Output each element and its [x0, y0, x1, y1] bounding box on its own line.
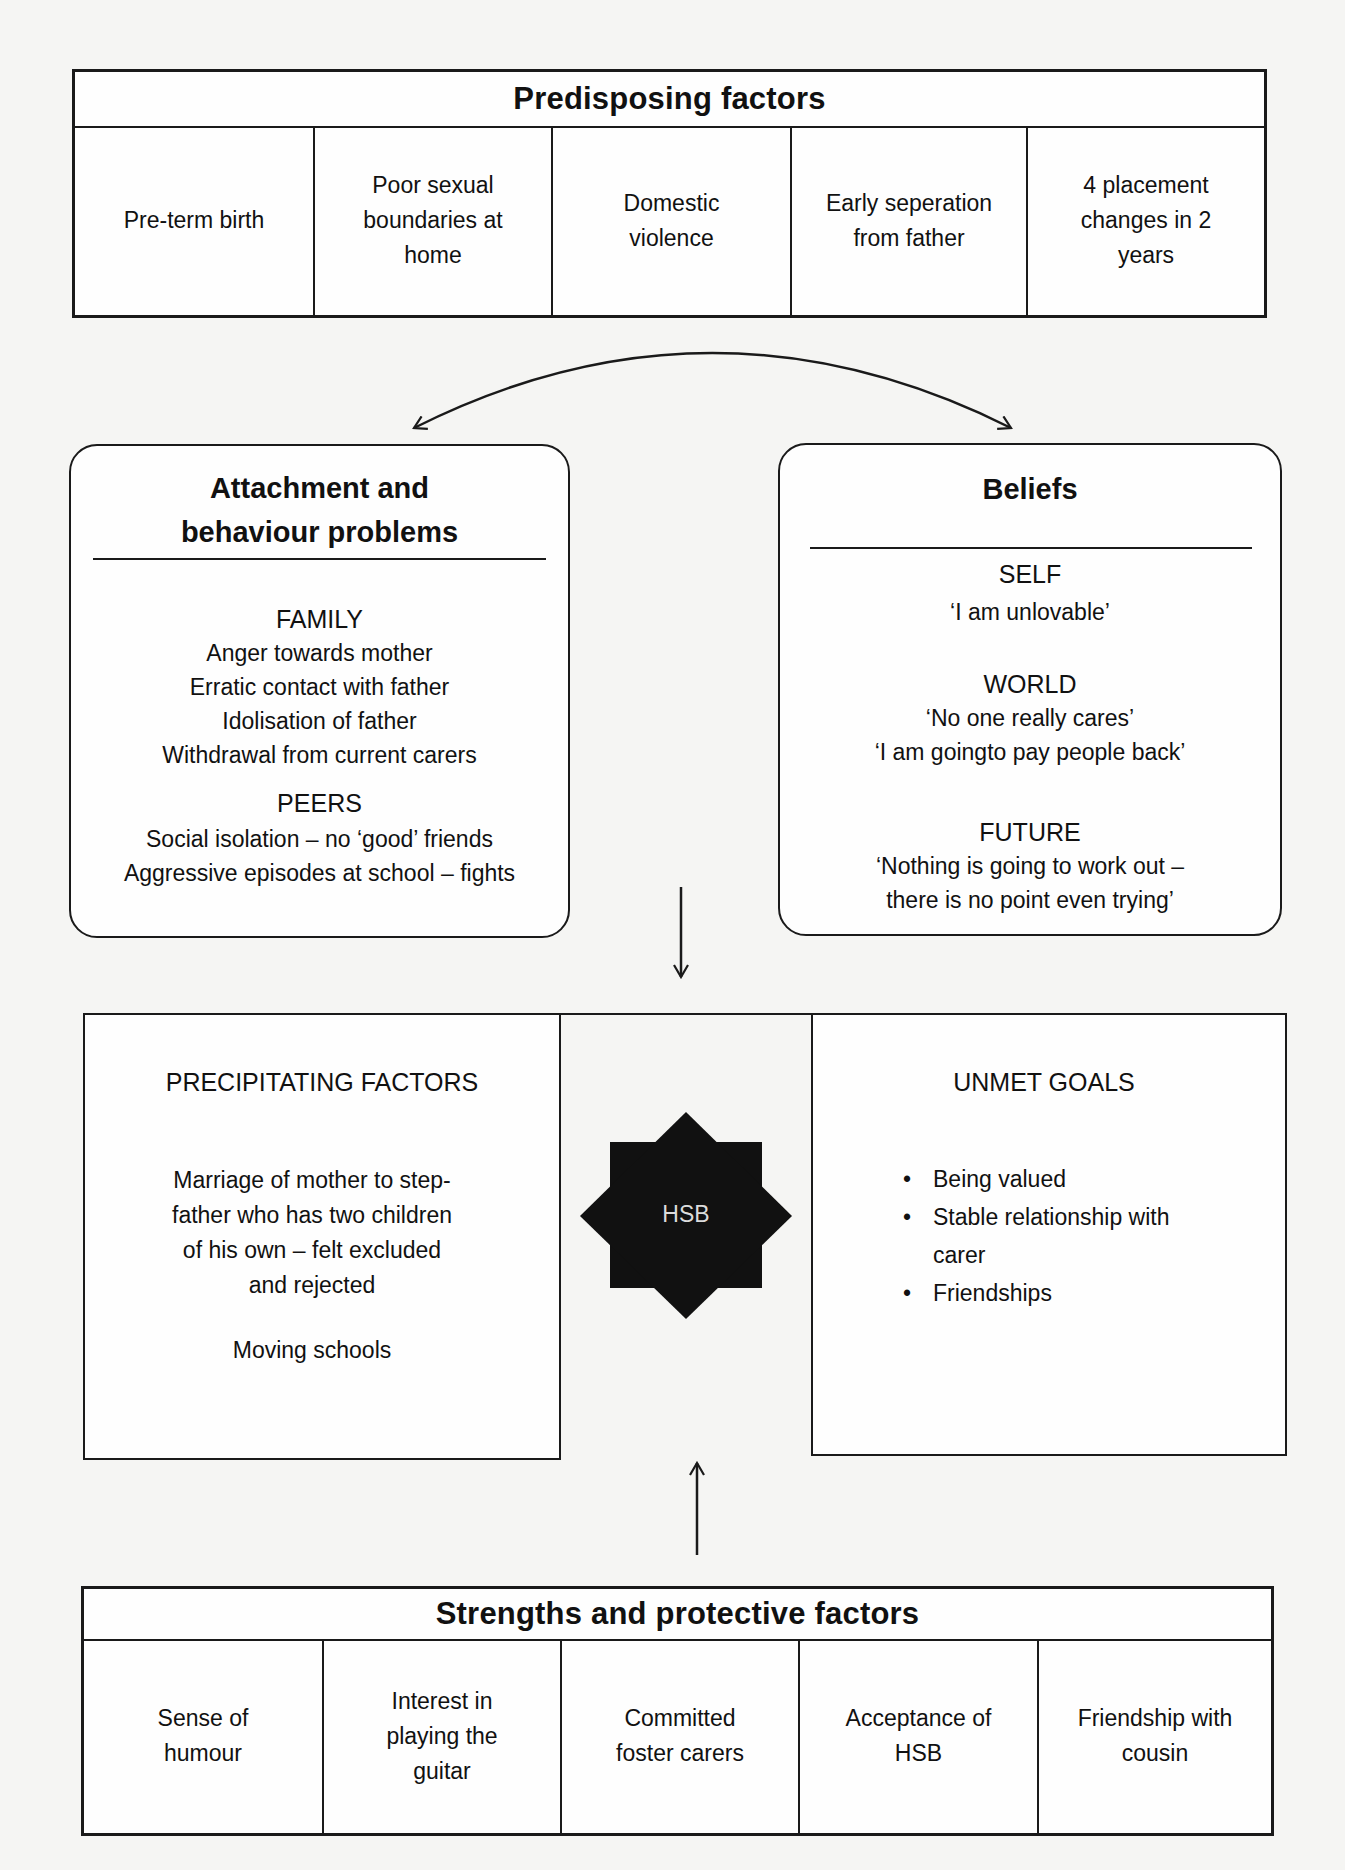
precipitating-item: Moving schools — [85, 1333, 539, 1368]
world-item: ‘I am goingto pay people back’ — [780, 735, 1280, 769]
predisposing-cell: Pre-term birth — [75, 126, 313, 315]
predisposing-cell: Early seperation from father — [790, 126, 1026, 315]
self-heading: SELF — [780, 557, 1280, 591]
cell-text: Pre-term birth — [124, 203, 265, 238]
peers-item: Aggressive episodes at school – fights — [71, 856, 568, 890]
predisposing-cell: Domestic violence — [551, 126, 790, 315]
unmet-goals-title: UNMET GOALS — [813, 1065, 1285, 1099]
peers-section: PEERS Social isolation – no ‘good’ frien… — [71, 786, 568, 890]
cell-text: Acceptance of HSB — [846, 1701, 992, 1771]
predisposing-cell: 4 placement changes in 2 years — [1026, 126, 1264, 315]
cell-text: Sense of humour — [158, 1701, 249, 1771]
future-section: FUTURE ‘Nothing is going to work out – t… — [780, 815, 1280, 917]
beliefs-title: Beliefs — [780, 467, 1280, 511]
family-item: Anger towards mother — [71, 636, 568, 670]
peers-heading: PEERS — [71, 786, 568, 820]
hsb-star: HSB — [579, 1111, 793, 1321]
double-curved-arrow — [414, 353, 1011, 428]
future-item: ‘Nothing is going to work out – — [780, 849, 1280, 883]
attachment-divider — [93, 558, 546, 560]
cell-text: Early seperation from father — [826, 186, 992, 256]
strengths-cell: Committed foster carers — [560, 1639, 798, 1833]
attachment-title: Attachment and behaviour problems — [71, 466, 568, 554]
precipitating-factors-box: PRECIPITATING FACTORS Marriage of mother… — [83, 1013, 561, 1460]
goal-item: Being valued — [903, 1160, 1265, 1198]
strengths-cell: Sense of humour — [84, 1639, 322, 1833]
cell-text: Poor sexual boundaries at home — [363, 168, 502, 273]
cell-text: 4 placement changes in 2 years — [1081, 168, 1211, 273]
family-item: Erratic contact with father — [71, 670, 568, 704]
predisposing-factors-table: Predisposing factors Pre-term birth Poor… — [72, 69, 1267, 318]
goal-item: Stable relationship with carer — [903, 1198, 1265, 1274]
precipitating-title: PRECIPITATING FACTORS — [85, 1065, 559, 1099]
future-heading: FUTURE — [780, 815, 1280, 849]
strengths-cell: Acceptance of HSB — [798, 1639, 1037, 1833]
precipitating-item: Marriage of mother to step- father who h… — [85, 1163, 539, 1303]
future-item: there is no point even trying’ — [780, 883, 1280, 917]
world-item: ‘No one really cares’ — [780, 701, 1280, 735]
family-item: Withdrawal from current carers — [71, 738, 568, 772]
strengths-table: Strengths and protective factors Sense o… — [81, 1586, 1274, 1836]
beliefs-divider — [810, 547, 1252, 549]
peers-item: Social isolation – no ‘good’ friends — [71, 822, 568, 856]
unmet-goals-list: Being valued Stable relationship with ca… — [903, 1160, 1265, 1312]
hsb-label: HSB — [579, 1199, 793, 1229]
world-section: WORLD ‘No one really cares’ ‘I am goingt… — [780, 667, 1280, 769]
cell-text: Domestic violence — [624, 186, 720, 256]
strengths-cell: Friendship with cousin — [1037, 1639, 1271, 1833]
self-section: SELF ‘I am unlovable’ — [780, 557, 1280, 629]
predisposing-factors-title: Predisposing factors — [75, 72, 1264, 128]
family-item: Idolisation of father — [71, 704, 568, 738]
cell-text: Friendship with cousin — [1078, 1701, 1233, 1771]
strengths-cell: Interest in playing the guitar — [322, 1639, 560, 1833]
unmet-goals-box: UNMET GOALS Being valued Stable relation… — [811, 1013, 1287, 1456]
cell-text: Committed foster carers — [616, 1701, 744, 1771]
strengths-title: Strengths and protective factors — [84, 1589, 1271, 1641]
world-heading: WORLD — [780, 667, 1280, 701]
family-heading: FAMILY — [71, 602, 568, 636]
predisposing-cell: Poor sexual boundaries at home — [313, 126, 551, 315]
cell-text: Interest in playing the guitar — [386, 1684, 497, 1789]
family-section: FAMILY Anger towards mother Erratic cont… — [71, 602, 568, 772]
goal-item: Friendships — [903, 1274, 1265, 1312]
beliefs-box: Beliefs SELF ‘I am unlovable’ WORLD ‘No … — [778, 443, 1282, 936]
attachment-behaviour-box: Attachment and behaviour problems FAMILY… — [69, 444, 570, 938]
self-item: ‘I am unlovable’ — [780, 595, 1280, 629]
